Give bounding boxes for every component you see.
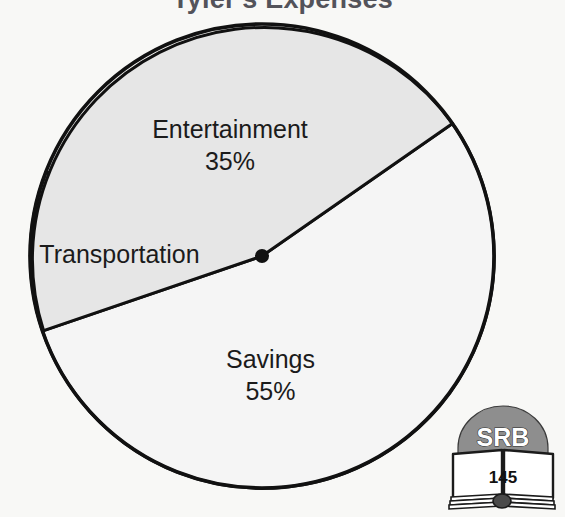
slice-label-entertainment: Entertainment 35% <box>110 113 350 177</box>
srb-monogram: SRB <box>477 423 530 451</box>
slice-label-savings-pct: 55% <box>178 375 363 407</box>
book-page-number: 145 <box>489 468 517 487</box>
srb-logo: SRB 145 <box>444 404 562 514</box>
chart-page: Tyler's Expenses Entertainment 35% Trans… <box>0 0 565 517</box>
book-spine <box>493 494 511 508</box>
slice-label-transportation: Transportation <box>12 238 227 270</box>
slice-label-savings: Savings 55% <box>178 343 363 407</box>
slice-label-transportation-name: Transportation <box>39 240 199 268</box>
srb-logo-svg: SRB 145 <box>444 404 562 514</box>
slice-label-savings-name: Savings <box>226 345 315 373</box>
pie-center-dot <box>255 249 269 263</box>
slice-label-entertainment-pct: 35% <box>110 145 350 177</box>
slice-label-entertainment-name: Entertainment <box>152 115 308 143</box>
